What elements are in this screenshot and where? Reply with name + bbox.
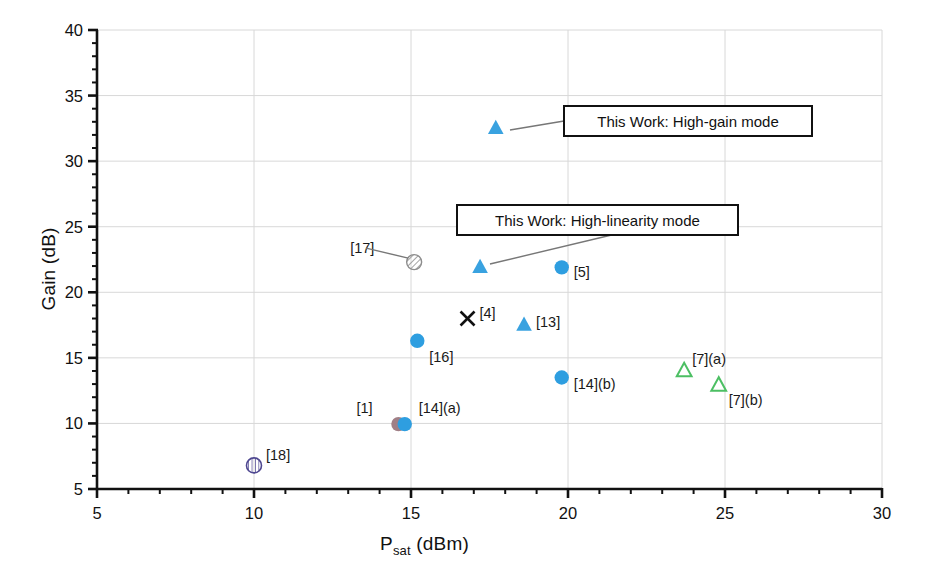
marker-circle-filled[interactable]	[398, 417, 412, 431]
data-point-label: [13]	[536, 314, 560, 330]
marker-circle-filled[interactable]	[410, 334, 424, 348]
y-axis-tick-label: 25	[65, 218, 83, 236]
x-axis-tick-label: 5	[92, 504, 101, 522]
data-point[interactable]	[472, 259, 488, 273]
data-point-label: [1]	[356, 400, 372, 416]
marker-circle-filled[interactable]	[555, 260, 569, 274]
data-point-label: [7](b)	[729, 392, 763, 408]
callout-leader-line	[490, 235, 612, 264]
x-axis-tick-label: 15	[402, 504, 420, 522]
data-point-label: [14](b)	[574, 376, 616, 392]
y-axis-tick-label: 35	[65, 87, 83, 105]
data-point[interactable]	[488, 120, 504, 134]
y-axis-tick-label: 10	[65, 414, 83, 432]
data-point-label: [7](a)	[692, 351, 726, 367]
scatter-chart-figure: 51015202530354051015202530[17][5][4][13]…	[0, 0, 931, 575]
data-point[interactable]: [14](a)	[398, 400, 461, 431]
marker-triangle-filled[interactable]	[516, 316, 532, 330]
marker-triangle-filled[interactable]	[472, 259, 488, 273]
x-axis-label: Psat (dBm)	[380, 533, 600, 558]
marker-circle-hatched[interactable]	[247, 458, 262, 473]
data-point-label: [16]	[429, 349, 453, 365]
marker-x-cross[interactable]	[461, 312, 475, 326]
data-point[interactable]: [16]	[410, 334, 453, 365]
data-point[interactable]: [4]	[461, 305, 496, 326]
x-axis-label-subscript: sat	[393, 543, 411, 558]
marker-circle-filled[interactable]	[555, 370, 569, 384]
y-axis-tick-label: 5	[74, 480, 83, 498]
x-axis-label-unit: (dBm)	[411, 533, 469, 554]
y-axis-tick-label: 40	[65, 21, 83, 39]
x-axis-tick-label: 30	[873, 504, 891, 522]
x-axis-label-main: P	[380, 533, 393, 554]
data-point-label: [4]	[480, 305, 496, 321]
data-point[interactable]: [7](a)	[677, 351, 726, 376]
data-point[interactable]: [13]	[516, 314, 560, 331]
data-point-label: [5]	[574, 264, 590, 280]
x-axis-tick-label: 10	[245, 504, 263, 522]
data-point[interactable]: [7](b)	[711, 377, 762, 408]
marker-triangle-open[interactable]	[677, 363, 692, 377]
callout-label: This Work: High-gain mode	[597, 113, 778, 130]
data-point-label: [18]	[266, 447, 290, 463]
y-axis-label: Gain (dB)	[38, 184, 60, 354]
data-point-label: [17]	[350, 240, 374, 256]
y-axis-tick-label: 15	[65, 349, 83, 367]
callout-label: This Work: High-linearity mode	[495, 212, 700, 229]
plot-canvas: 51015202530354051015202530[17][5][4][13]…	[0, 0, 931, 575]
x-axis-tick-label: 20	[559, 504, 577, 522]
y-axis-tick-label: 20	[65, 283, 83, 301]
marker-circle-hatched[interactable]	[407, 255, 422, 270]
y-axis-tick-label: 30	[65, 152, 83, 170]
callout-leader-line	[510, 121, 564, 130]
x-axis-tick-label: 25	[716, 504, 734, 522]
data-point[interactable]: [5]	[555, 260, 590, 280]
data-point[interactable]: [14](b)	[555, 370, 616, 391]
marker-triangle-open[interactable]	[711, 377, 726, 391]
marker-triangle-filled[interactable]	[488, 120, 504, 134]
data-point[interactable]: [18]	[247, 447, 291, 473]
data-point-label: [14](a)	[419, 400, 461, 416]
